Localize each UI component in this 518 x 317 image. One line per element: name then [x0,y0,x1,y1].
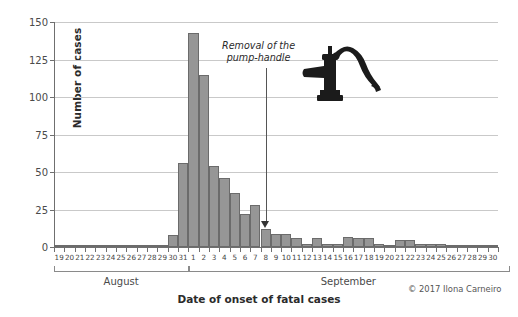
copyright-text: © 2017 Ilona Carneiro [408,284,501,294]
x-tick-mark [178,247,179,252]
y-tick-label: 50 [35,167,48,178]
x-tick-label: 16 [344,253,353,262]
x-axis-tick-labels: 1920212223242526272829303112345678910111… [54,253,498,265]
x-tick-mark [281,247,282,252]
x-tick-label: 28 [468,253,477,262]
x-tick-mark [95,247,96,252]
x-tick-label: 12 [302,253,311,262]
x-tick-mark [188,247,189,252]
bar [219,178,229,247]
x-tick-label: 23 [416,253,425,262]
x-tick-label: 7 [253,253,258,262]
y-tick-label: 0 [42,242,48,253]
x-tick-label: 8 [263,253,268,262]
x-tick-mark [426,247,427,252]
bar [291,238,301,247]
annotation-line-2: pump-handle [222,52,295,64]
x-tick-mark [261,247,262,252]
bar [168,235,178,247]
x-tick-label: 25 [437,253,446,262]
annotation-arrow-head [261,221,269,228]
x-tick-mark [312,247,313,252]
x-tick-mark [116,247,117,252]
x-tick-label: 31 [178,253,187,262]
x-tick-label: 17 [354,253,363,262]
bar [209,166,219,247]
x-tick-label: 27 [137,253,146,262]
x-tick-mark [54,247,55,252]
x-tick-mark [467,247,468,252]
x-tick-mark [85,247,86,252]
month-bracket [188,266,510,272]
bar [312,238,322,247]
x-tick-label: 20 [385,253,394,262]
x-tick-mark [240,247,241,252]
y-tick-label: 125 [29,54,48,65]
x-tick-label: 9 [274,253,279,262]
x-tick-label: 19 [375,253,384,262]
x-tick-label: 1 [191,253,196,262]
x-tick-mark [477,247,478,252]
y-tick-label: 150 [29,17,48,28]
x-tick-mark [457,247,458,252]
x-tick-mark [343,247,344,252]
bar [353,238,363,247]
bar [240,214,250,247]
x-tick-mark [364,247,365,252]
y-tick-label: 100 [29,92,48,103]
x-tick-label: 4 [222,253,227,262]
x-tick-label: 26 [127,253,136,262]
x-tick-label: 22 [86,253,95,262]
bar [199,75,209,248]
x-tick-mark [384,247,385,252]
x-tick-mark [436,247,437,252]
annotation-line-1: Removal of the [222,40,295,52]
bar [250,205,260,247]
x-tick-label: 29 [478,253,487,262]
x-tick-label: 15 [333,253,342,262]
x-tick-mark [291,247,292,252]
bar [343,237,353,248]
x-tick-mark [333,247,334,252]
x-tick-mark [405,247,406,252]
x-tick-label: 30 [488,253,497,262]
month-label: August [104,276,139,287]
x-tick-mark [446,247,447,252]
x-tick-label: 2 [201,253,206,262]
chart-figure: Number of cases 0255075100125150 1920212… [0,0,518,317]
x-tick-label: 23 [96,253,105,262]
x-tick-label: 26 [447,253,456,262]
x-tick-mark [157,247,158,252]
x-tick-mark [353,247,354,252]
bar [271,234,281,248]
x-tick-label: 19 [55,253,64,262]
x-tick-mark [168,247,169,252]
x-tick-label: 3 [212,253,217,262]
annotation-arrow-line [266,68,267,222]
x-tick-label: 14 [323,253,332,262]
x-tick-mark [415,247,416,252]
x-tick-label: 28 [148,253,157,262]
x-tick-mark [498,247,499,252]
bar [405,240,415,248]
bar [188,33,198,248]
bar [281,234,291,248]
x-tick-label: 27 [457,253,466,262]
x-tick-label: 29 [158,253,167,262]
bar [230,193,240,247]
x-tick-label: 21 [395,253,404,262]
x-tick-label: 5 [232,253,237,262]
y-tick-label: 25 [35,204,48,215]
x-axis-title: Date of onset of fatal cases [0,293,518,305]
x-tick-mark [302,247,303,252]
x-tick-mark [230,247,231,252]
x-tick-mark [271,247,272,252]
x-tick-label: 30 [168,253,177,262]
x-tick-label: 13 [313,253,322,262]
x-tick-label: 22 [406,253,415,262]
x-tick-mark [75,247,76,252]
bar [261,229,271,247]
x-tick-mark [199,247,200,252]
x-tick-label: 24 [426,253,435,262]
x-tick-mark [147,247,148,252]
